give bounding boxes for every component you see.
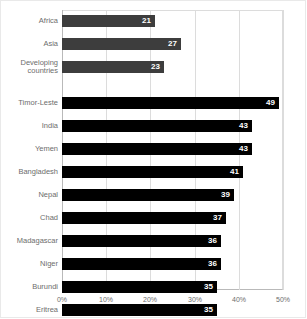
bar: 49 [62, 97, 279, 109]
bar-rows: 21272349434341393736363535 [62, 10, 283, 290]
bar-value-label: 36 [208, 258, 217, 270]
category-label: Yemen [0, 145, 58, 154]
tick-label-30%: 30% [175, 296, 215, 303]
bar-value-label: 49 [266, 97, 275, 109]
tick-label-0%: 0% [42, 296, 82, 303]
bar: 43 [62, 143, 252, 155]
bar-row: 43 [62, 120, 283, 132]
category-label: Chad [0, 214, 58, 223]
category-label: Niger [0, 260, 58, 269]
bar-row: 36 [62, 235, 283, 247]
category-label: Burundi [0, 283, 58, 292]
bar-value-label: 43 [239, 120, 248, 132]
bar-value-label: 21 [142, 15, 151, 27]
bar: 43 [62, 120, 252, 132]
plot-wrapper: 21272349434341393736363535 [62, 10, 283, 290]
category-label: India [0, 122, 58, 131]
bar: 35 [62, 304, 217, 316]
bar-value-label: 27 [168, 38, 177, 50]
bar: 36 [62, 258, 221, 270]
category-label: Madagascar [0, 237, 58, 246]
bar-row: 37 [62, 212, 283, 224]
bar: 23 [62, 61, 164, 73]
bar-row: 41 [62, 166, 283, 178]
bar-row: 35 [62, 281, 283, 293]
category-label: Eritrea [0, 306, 58, 315]
tick-label-10%: 10% [86, 296, 126, 303]
bar: 21 [62, 15, 155, 27]
bar-row: 39 [62, 189, 283, 201]
bar-value-label: 37 [213, 212, 222, 224]
tick-label-40%: 40% [219, 296, 259, 303]
bar: 39 [62, 189, 234, 201]
tick-label-50%: 50% [263, 296, 303, 303]
bar: 36 [62, 235, 221, 247]
category-label: Timor-Leste [0, 99, 58, 108]
bar: 27 [62, 38, 181, 50]
bar-row: 21 [62, 15, 283, 27]
bar-value-label: 39 [221, 189, 230, 201]
category-label: Asia [0, 40, 58, 49]
bar-value-label: 43 [239, 143, 248, 155]
category-label: Nepal [0, 191, 58, 200]
bar-value-label: 41 [230, 166, 239, 178]
category-label: Bangladesh [0, 168, 58, 177]
bar-value-label: 36 [208, 235, 217, 247]
category-label: Developing countries [0, 59, 58, 76]
bar-row: 23 [62, 61, 283, 73]
tick-label-20%: 20% [130, 296, 170, 303]
bar-value-label: 23 [151, 61, 160, 73]
gridline-50% [283, 10, 284, 290]
bar-row: 27 [62, 38, 283, 50]
category-label: Africa [0, 17, 58, 26]
bar-row: 49 [62, 97, 283, 109]
bar-row: 36 [62, 258, 283, 270]
bar-value-label: 35 [204, 304, 213, 316]
bar-chart-figure: 21272349434341393736363535 AfricaAsiaDev… [0, 0, 307, 319]
bar-row: 43 [62, 143, 283, 155]
bar-row: 35 [62, 304, 283, 316]
bar: 41 [62, 166, 243, 178]
bar: 37 [62, 212, 226, 224]
bar-value-label: 35 [204, 281, 213, 293]
bar: 35 [62, 281, 217, 293]
